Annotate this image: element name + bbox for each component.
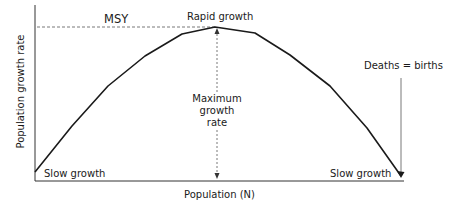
arrow-down-right-icon [397, 171, 405, 178]
slow-growth-left-label: Slow growth [44, 168, 105, 179]
arrow-down-icon [215, 173, 220, 179]
slow-growth-right-label: Slow growth [330, 168, 391, 179]
x-axis-label: Population (N) [184, 189, 255, 200]
max-growth-rate-label: Maximum growth rate [191, 93, 243, 129]
arrow-up-icon [215, 28, 220, 34]
y-axis-label: Population growth rate [15, 27, 26, 157]
deaths-equals-births-label: Deaths = births [364, 60, 443, 71]
msy-label: MSY [104, 12, 128, 26]
max-growth-rate-line-1: Maximum [191, 93, 243, 105]
rapid-growth-label: Rapid growth [187, 11, 253, 22]
max-growth-rate-line-2: growth [191, 105, 243, 117]
max-growth-rate-line-3: rate [191, 117, 243, 129]
